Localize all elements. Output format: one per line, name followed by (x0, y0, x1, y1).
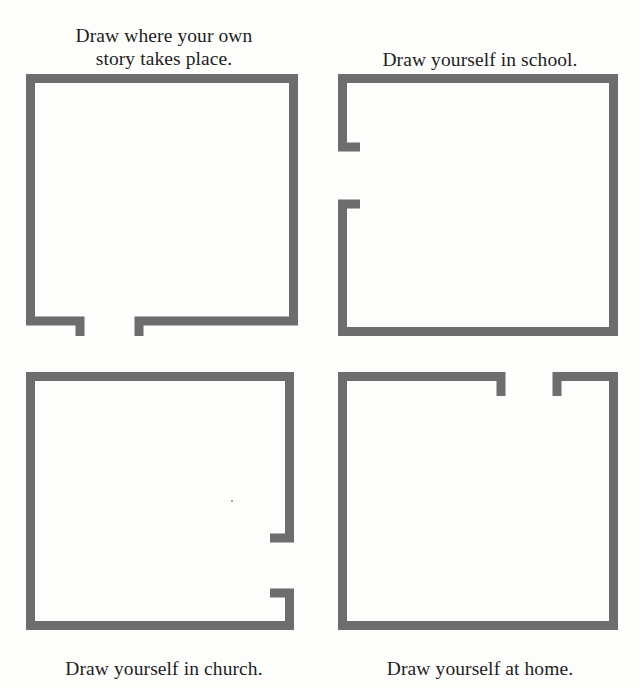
drawing-frame-home[interactable] (338, 372, 618, 630)
worksheet-page: Draw where your own story takes place. D… (0, 0, 639, 687)
drawing-frame-church[interactable] (26, 372, 298, 630)
panel-caption-school: Draw yourself in school. (330, 22, 630, 71)
panel-caption-home: Draw yourself at home. (330, 657, 630, 680)
paper-speck (231, 500, 233, 502)
panel-own-story: Draw where your own story takes place. (14, 22, 314, 352)
panel-school: Draw yourself in school. (330, 22, 630, 352)
panel-home: Draw yourself at home. (330, 368, 630, 680)
panel-caption-own-story: Draw where your own story takes place. (14, 22, 314, 70)
panel-church: Draw yourself in church. (14, 368, 314, 680)
drawing-frame-school[interactable] (338, 74, 618, 336)
drawing-frame-own-story[interactable] (26, 74, 298, 336)
panel-caption-church: Draw yourself in church. (14, 657, 314, 680)
